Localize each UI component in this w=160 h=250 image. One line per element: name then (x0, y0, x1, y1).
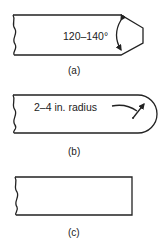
leader-line (112, 105, 137, 111)
caption-c: (c) (68, 227, 80, 238)
caption-a: (a) (68, 65, 80, 76)
diagram-canvas: 120–140° (a) 2–4 in. radius (b) (c) (0, 0, 160, 250)
figure-c-square-bar (15, 177, 132, 215)
caption-b: (b) (68, 146, 80, 157)
angle-arc-icon (117, 20, 122, 50)
radius-arrow-icon (133, 104, 144, 118)
angle-annotation: 120–140° (63, 30, 108, 42)
radius-annotation: 2–4 in. radius (34, 101, 97, 113)
